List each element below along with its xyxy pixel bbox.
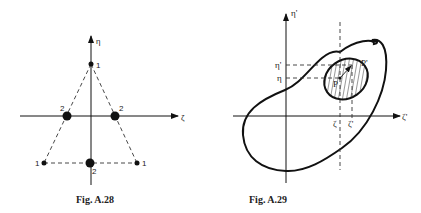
eta-label: η	[96, 37, 100, 46]
eta-prime-tick-label: η'	[275, 60, 282, 70]
zeta-label: ζ	[181, 113, 185, 122]
eta-prime-axis-label: η'	[291, 8, 298, 18]
caption-fig-a28: Fig. A.28	[76, 194, 114, 205]
node-label: 2	[60, 104, 65, 113]
node-label: 2	[92, 167, 97, 176]
point-p	[339, 77, 342, 80]
node-1-bottom-right	[135, 161, 140, 166]
node-1-top	[89, 62, 94, 67]
fig-a28: η ζ 1 1 1 2 2 2	[20, 36, 185, 185]
node-label: 1	[142, 159, 147, 168]
p-label: P	[333, 79, 338, 89]
zeta-tick-label: ζ	[333, 119, 337, 129]
eta-tick-label: η	[277, 73, 282, 83]
node-label: 1	[35, 159, 40, 168]
fig-a29: η' η ζ ζ' P P' η' ζ'	[233, 8, 408, 183]
zeta-prime-tick-label: ζ'	[348, 119, 354, 129]
node-label: 2	[119, 104, 124, 113]
node-1-bottom-left	[42, 161, 47, 166]
node-label: 1	[96, 61, 101, 70]
figures-canvas: η ζ 1 1 1 2 2 2 η' η ζ ζ' P P' η' ζ'	[0, 0, 421, 213]
caption-fig-a29: Fig. A.29	[249, 194, 287, 205]
p-prime-label: P'	[361, 58, 368, 68]
zeta-prime-axis-label: ζ'	[402, 112, 408, 122]
